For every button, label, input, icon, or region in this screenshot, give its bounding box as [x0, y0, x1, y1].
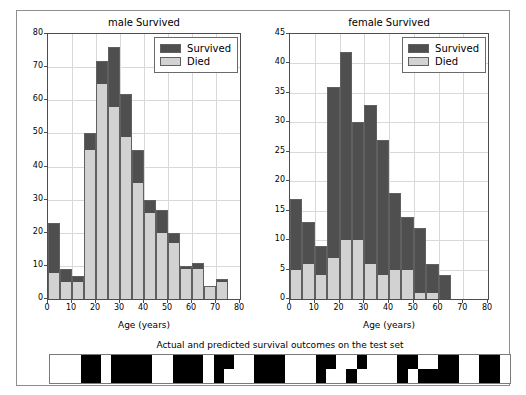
x-tick-label: 40: [383, 304, 393, 312]
outcomes-strip-cell: [285, 355, 295, 369]
outcomes-strip-cell: [459, 355, 469, 369]
histogram-bar: [96, 61, 108, 300]
y-tick-mark: [44, 33, 47, 34]
outcomes-strip-cell: [60, 355, 70, 369]
outcomes-strip-cell: [408, 369, 418, 383]
outcomes-strip-cell: [70, 355, 80, 369]
y-tick-mark: [44, 166, 47, 167]
outcomes-strip-cell: [101, 369, 111, 383]
outcomes-strip-cell: [397, 369, 407, 383]
outcomes-strip-cell: [224, 355, 234, 369]
legend-swatch-died: [408, 57, 429, 66]
x-tick-label: 30: [114, 304, 124, 312]
histogram-bar: [364, 105, 376, 299]
outcomes-strip-cell: [428, 355, 438, 369]
bar-segment-died: [340, 240, 352, 299]
outcomes-strip-cell: [500, 355, 510, 369]
outcomes-strip-cell: [387, 369, 397, 383]
y-tick-label: 20: [33, 228, 43, 236]
outcomes-strip-cell: [122, 355, 132, 369]
outcomes-strip-cell: [183, 369, 193, 383]
x-tick-mark: [47, 300, 48, 303]
y-tick-label: 40: [275, 58, 285, 66]
outcomes-strip-cell: [91, 369, 101, 383]
outcomes-strip-cell: [387, 355, 397, 369]
y-tick-mark: [286, 121, 289, 122]
x-tick-mark: [167, 300, 168, 303]
x-tick-label: 10: [309, 304, 319, 312]
bar-segment-died: [302, 264, 314, 299]
bar-segment-died: [327, 258, 339, 299]
bar-segment-survived: [168, 233, 180, 243]
bar-segment-survived: [401, 217, 413, 270]
histogram-bar: [401, 217, 413, 299]
outcomes-strip-cell: [449, 355, 459, 369]
legend-item-survived: Survived: [160, 42, 231, 55]
x-tick-mark: [289, 300, 290, 303]
chart-male-survived: male Survived Age (years) Survived Died …: [47, 33, 241, 300]
x-tick-label: 30: [358, 304, 368, 312]
bar-segment-survived: [439, 275, 451, 299]
histogram-bar: [439, 275, 451, 299]
histogram-bar: [389, 193, 401, 299]
y-tick-mark: [44, 99, 47, 100]
outcomes-strip-cell: [234, 369, 244, 383]
outcomes-strip-cell: [60, 369, 70, 383]
y-tick-label: 5: [280, 265, 285, 273]
legend-swatch-died: [160, 57, 181, 66]
bar-segment-died: [192, 269, 204, 299]
histogram-bar: [48, 223, 60, 299]
x-tick-label: 50: [408, 304, 418, 312]
outcomes-strip-cell: [397, 355, 407, 369]
y-tick-label: 20: [275, 176, 285, 184]
x-tick-label: 80: [234, 304, 244, 312]
outcomes-strip-cell: [367, 355, 377, 369]
bar-segment-survived: [120, 94, 132, 137]
outcomes-strip-cell: [357, 369, 367, 383]
chart-male-title: male Survived: [47, 17, 241, 28]
x-tick-mark: [143, 300, 144, 303]
outcomes-strip-cell: [275, 355, 285, 369]
x-tick-label: 20: [333, 304, 343, 312]
outcomes-strip-cell: [326, 355, 336, 369]
x-tick-mark: [191, 300, 192, 303]
bar-segment-died: [414, 293, 426, 299]
outcomes-strip-cell: [336, 369, 346, 383]
outcomes-strip-cell: [428, 369, 438, 383]
gridline-vertical: [72, 34, 73, 299]
chart-female-title: female Survived: [289, 17, 489, 28]
outcomes-strip: Actual and predicted survival outcomes o…: [49, 340, 511, 388]
bar-segment-survived: [364, 105, 376, 264]
outcomes-strip-cell: [418, 355, 428, 369]
x-tick-mark: [413, 300, 414, 303]
outcomes-strip-cell: [408, 355, 418, 369]
y-tick-mark: [44, 66, 47, 67]
bar-segment-died: [352, 240, 364, 299]
outcomes-strip-plotarea: [49, 354, 511, 384]
bar-segment-survived: [108, 47, 120, 107]
gridline-vertical: [192, 34, 193, 299]
outcomes-strip-cell: [326, 369, 336, 383]
outcomes-strip-cell: [244, 369, 254, 383]
y-tick-mark: [286, 33, 289, 34]
outcomes-strip-cell: [479, 355, 489, 369]
legend-swatch-survived: [160, 44, 181, 53]
y-tick-mark: [286, 298, 289, 299]
y-tick-mark: [286, 151, 289, 152]
outcomes-strip-row-actual: [50, 355, 510, 369]
legend-item-died: Died: [408, 55, 479, 68]
bar-segment-died: [426, 293, 438, 299]
x-tick-mark: [438, 300, 439, 303]
outcomes-strip-cell: [101, 355, 111, 369]
gridline-vertical: [216, 34, 217, 299]
outcomes-strip-cell: [438, 369, 448, 383]
bar-segment-died: [72, 282, 84, 299]
histogram-bar: [156, 210, 168, 299]
bar-segment-survived: [414, 228, 426, 293]
outcomes-strip-cell: [91, 355, 101, 369]
outcomes-strip-cell: [295, 369, 305, 383]
chart-male-xlabel: Age (years): [47, 320, 241, 330]
x-tick-mark: [314, 300, 315, 303]
bar-segment-survived: [96, 61, 108, 84]
y-tick-mark: [44, 265, 47, 266]
